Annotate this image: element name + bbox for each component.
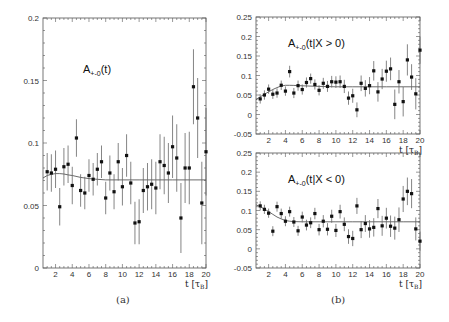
panel-a: 246810121416182000.050.10.150.2t [τB]A+-… <box>23 14 211 290</box>
x-tick-label: 8 <box>103 270 108 279</box>
data-point <box>339 210 342 213</box>
x-tick-label: 2 <box>53 270 58 279</box>
data-point <box>288 70 291 73</box>
y-tick-label: 0.1 <box>28 139 40 148</box>
data-point <box>347 235 350 238</box>
data-point <box>133 221 136 224</box>
data-point <box>360 82 363 85</box>
data-point <box>129 181 132 184</box>
x-tick-label: 8 <box>317 270 322 279</box>
data-point <box>376 207 379 210</box>
x-tick-label: 16 <box>382 136 391 145</box>
y-tick-label: 0.1 <box>241 207 253 216</box>
plot-frame <box>256 17 420 134</box>
x-tick-label: 6 <box>87 270 92 279</box>
data-point <box>267 212 270 215</box>
data-point <box>150 183 153 186</box>
data-point <box>271 93 274 96</box>
data-point <box>263 93 266 96</box>
y-tick-label: 0.15 <box>236 52 252 61</box>
data-point <box>142 189 145 192</box>
x-tick-label: 4 <box>70 270 75 279</box>
data-point <box>171 145 174 148</box>
data-point <box>389 67 392 70</box>
data-point <box>381 77 384 80</box>
data-point <box>292 91 295 94</box>
plot-frame <box>256 153 420 268</box>
data-point <box>313 83 316 86</box>
data-point <box>117 160 120 163</box>
data-point <box>204 150 207 153</box>
x-axis-title-end: ] <box>204 279 208 289</box>
panel-b-top: 2468101214161820-0.0500.050.10.150.20.25… <box>234 13 425 156</box>
data-point <box>355 204 358 207</box>
data-point <box>343 223 346 226</box>
x-tick-label: 18 <box>185 270 194 279</box>
x-axis-title-end: ] <box>418 279 422 289</box>
data-point <box>146 185 149 188</box>
data-point <box>163 164 166 167</box>
x-tick-label: 12 <box>348 136 357 145</box>
data-point <box>317 228 320 231</box>
x-tick-label: 18 <box>399 136 408 145</box>
x-tick-label: 10 <box>331 270 340 279</box>
data-point <box>284 220 287 223</box>
data-point <box>343 85 346 88</box>
y-tick-label: 0.2 <box>241 168 253 177</box>
data-point <box>200 201 203 204</box>
panel-title-sub: +-0 <box>295 180 305 187</box>
data-point <box>125 154 128 157</box>
data-point <box>50 171 53 174</box>
data-point <box>364 222 367 225</box>
data-point <box>179 216 182 219</box>
data-point <box>54 168 57 171</box>
data-point <box>108 171 111 174</box>
x-tick-label: 6 <box>300 270 305 279</box>
data-point <box>301 215 304 218</box>
panel-title-sub: +-0 <box>295 44 305 51</box>
panel-title: A+-0(t|X > 0) <box>288 37 345 51</box>
data-point <box>175 156 178 159</box>
data-point <box>414 227 417 230</box>
data-point <box>368 84 371 87</box>
data-point <box>385 217 388 220</box>
data-point <box>280 84 283 87</box>
x-tick-label: 14 <box>365 270 374 279</box>
data-point <box>280 212 283 215</box>
fit-curve <box>256 85 420 99</box>
data-point <box>351 237 354 240</box>
x-axis-title: t [τB] <box>399 145 422 156</box>
panel-title-rest: (t|X < 0) <box>306 173 345 185</box>
x-tick-label: 10 <box>118 270 127 279</box>
data-point <box>96 168 99 171</box>
data-point <box>292 220 295 223</box>
data-point <box>317 89 320 92</box>
data-point <box>330 80 333 83</box>
panel-title-rest: (t|X > 0) <box>306 37 345 49</box>
plot-frame <box>43 18 206 268</box>
y-tick-label: 0.15 <box>236 187 252 196</box>
data-point <box>296 229 299 232</box>
data-point <box>267 88 270 91</box>
data-point <box>351 94 354 97</box>
y-tick-label: 0.2 <box>28 14 40 23</box>
data-point <box>196 116 199 119</box>
x-tick-label: 12 <box>135 270 144 279</box>
data-point <box>385 70 388 73</box>
data-point <box>322 82 325 85</box>
data-point <box>104 196 107 199</box>
data-point <box>259 97 262 100</box>
data-point <box>397 80 400 83</box>
data-point <box>66 163 69 166</box>
data-point <box>381 224 384 227</box>
data-point <box>288 210 291 213</box>
y-tick-label: 0 <box>248 245 253 254</box>
data-point <box>313 212 316 215</box>
y-tick-label: 0.05 <box>23 202 39 211</box>
x-tick-label: 20 <box>416 136 425 145</box>
data-point <box>83 191 86 194</box>
panel-title-sub: +-0 <box>90 70 100 77</box>
x-tick-label: 14 <box>365 136 374 145</box>
x-tick-label: 6 <box>300 136 305 145</box>
data-point <box>87 174 90 177</box>
